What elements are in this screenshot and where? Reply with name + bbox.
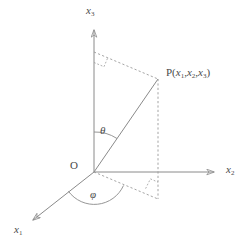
theta-angle-label: θ (100, 125, 105, 136)
right-angle-marker-upper (94, 57, 108, 66)
axis-line-x1 (33, 172, 94, 220)
axis-label-x3: x3 (86, 5, 94, 16)
origin-label: O (70, 160, 78, 171)
phi-angle-label: φ (90, 189, 96, 200)
axis-label-x2: x2 (226, 164, 234, 175)
dashed-line-x3-to-p (94, 52, 158, 79)
theta-arc (94, 132, 117, 139)
point-p-label: P(x1,x2,x3) (166, 67, 210, 78)
figure-canvas (0, 0, 251, 248)
spherical-coordinate-figure: x3 x2 x1 O P(x1,x2,x3) θ φ (0, 0, 251, 248)
dashed-line-origin-to-projection (94, 172, 158, 199)
axis-label-x1: x1 (14, 224, 22, 235)
right-angle-marker-lower (146, 179, 158, 189)
